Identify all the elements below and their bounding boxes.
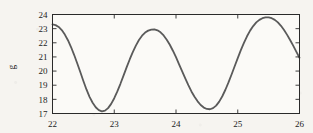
- y-tick-label: 19: [39, 80, 49, 90]
- x-tick-label: 22: [48, 119, 57, 129]
- y-tick-label: 23: [39, 24, 49, 34]
- oscillation-plot: 2223242526 1718192021222324 g: [0, 0, 313, 133]
- y-tick-label: 20: [39, 66, 49, 76]
- chart-screenshot: 2223242526 1718192021222324 g: [0, 0, 313, 133]
- y-tick-label: 18: [39, 95, 49, 105]
- y-tick-label: 22: [39, 38, 48, 48]
- x-tick-label: 25: [233, 119, 243, 129]
- x-axis-tick-labels: 2223242526: [48, 119, 305, 129]
- y-axis-title: g: [7, 64, 17, 69]
- x-tick-label: 23: [110, 119, 120, 129]
- y-axis-tick-labels: 1718192021222324: [39, 10, 49, 119]
- x-tick-label: 26: [295, 119, 305, 129]
- y-tick-label: 24: [39, 10, 49, 20]
- y-tick-label: 17: [39, 109, 49, 119]
- y-tick-label: 21: [39, 52, 48, 62]
- x-tick-label: 24: [172, 119, 182, 129]
